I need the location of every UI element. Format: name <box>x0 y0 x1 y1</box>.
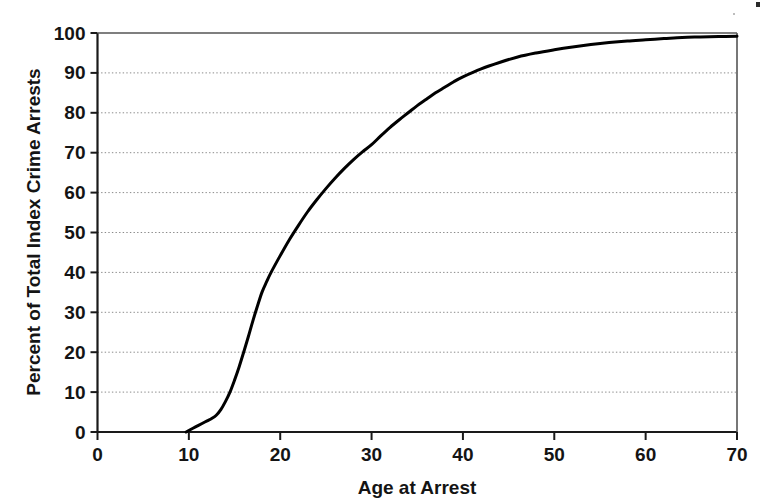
x-tick-label-60: 60 <box>635 444 656 465</box>
chart-background <box>0 0 767 504</box>
y-tick-label-70: 70 <box>64 142 85 163</box>
y-tick-label-10: 10 <box>64 382 85 403</box>
y-tick-label-100: 100 <box>54 23 86 44</box>
y-tick-label-40: 40 <box>64 262 85 283</box>
x-tick-label-20: 20 <box>270 444 291 465</box>
y-tick-label-20: 20 <box>64 342 85 363</box>
x-tick-label-10: 10 <box>178 444 199 465</box>
scan-artifact-speck <box>756 2 760 7</box>
x-tick-label-40: 40 <box>452 444 473 465</box>
x-axis-title: Age at Arrest <box>358 477 477 498</box>
x-tick-label-30: 30 <box>361 444 382 465</box>
y-tick-label-90: 90 <box>64 62 85 83</box>
y-tick-label-60: 60 <box>64 182 85 203</box>
y-tick-label-0: 0 <box>75 422 86 443</box>
chart-figure: 0102030405060708090100 010203040506070 A… <box>0 0 767 504</box>
y-tick-label-80: 80 <box>64 102 85 123</box>
scan-artifact-dot <box>733 13 735 15</box>
y-tick-label-30: 30 <box>64 302 85 323</box>
x-tick-label-50: 50 <box>544 444 565 465</box>
x-tick-label-70: 70 <box>726 444 747 465</box>
y-axis-title: Percent of Total Index Crime Arrests <box>23 68 44 395</box>
x-tick-label-0: 0 <box>92 444 103 465</box>
line-chart: 0102030405060708090100 010203040506070 A… <box>0 0 767 504</box>
y-tick-label-50: 50 <box>64 222 85 243</box>
